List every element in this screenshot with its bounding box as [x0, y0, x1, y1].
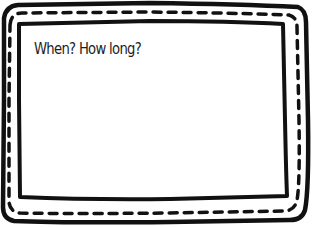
- doodle-border-icon: [0, 0, 315, 227]
- prompt-text: When? How long?: [34, 40, 141, 58]
